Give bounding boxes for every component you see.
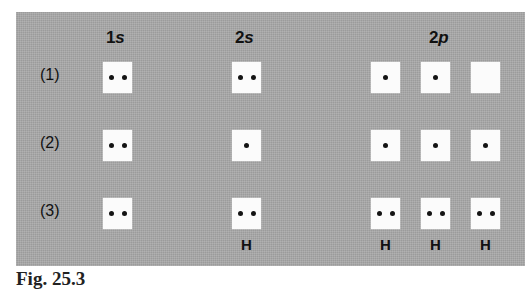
electron-dot-group	[103, 130, 132, 161]
electron-dot	[238, 75, 243, 80]
electron-dot	[383, 143, 388, 148]
electron-dot-group	[471, 198, 500, 229]
electron-dot	[433, 143, 438, 148]
electron-dot	[109, 211, 114, 216]
electron-dot-group	[471, 130, 500, 161]
electron-dot	[433, 75, 438, 80]
electron-dot	[483, 143, 488, 148]
electron-dot	[122, 143, 127, 148]
electron-dot	[238, 211, 243, 216]
electron-dot	[244, 143, 249, 148]
orbital-box-2p-row2-4	[421, 130, 450, 161]
hybrid-label-2p-row3-4: H	[421, 236, 450, 253]
electron-dot-group	[421, 198, 450, 229]
electron-dot-group	[103, 198, 132, 229]
orbital-box-2s-row3-2	[232, 198, 261, 229]
electron-dot-group	[371, 130, 400, 161]
column-header-2p: 2p	[429, 28, 448, 48]
electron-dot	[383, 75, 388, 80]
electron-dot-group	[371, 62, 400, 93]
electron-dot-group	[232, 198, 261, 229]
electron-dot	[477, 211, 482, 216]
column-header-1s: 1s	[106, 28, 125, 48]
electron-dot	[122, 75, 127, 80]
electron-dot	[390, 211, 395, 216]
orbital-box-2p-row3-5	[471, 198, 500, 229]
electron-dot	[490, 211, 495, 216]
orbital-box-2p-row2-5	[471, 130, 500, 161]
hybrid-label-2p-row3-5: H	[471, 236, 500, 253]
column-header-2p-subshell: p	[438, 28, 448, 47]
electron-dot-group	[471, 62, 500, 93]
orbital-box-1s-row2-1	[103, 130, 132, 161]
electron-dot-group	[232, 130, 261, 161]
electron-dot-group	[371, 198, 400, 229]
row-label-1: (1)	[40, 66, 60, 84]
electron-dot	[122, 211, 127, 216]
orbital-box-1s-row3-1	[103, 198, 132, 229]
electron-dot	[251, 211, 256, 216]
row-label-3: (3)	[40, 202, 60, 220]
column-header-1s-shell: 1	[106, 28, 115, 47]
electron-dot-group	[421, 62, 450, 93]
column-header-2s-shell: 2	[235, 28, 244, 47]
column-header-1s-subshell: s	[115, 28, 124, 47]
orbital-box-2p-row2-3	[371, 130, 400, 161]
orbital-box-2s-row2-2	[232, 130, 261, 161]
orbital-box-2p-row3-3	[371, 198, 400, 229]
electron-dot-group	[232, 62, 261, 93]
orbital-box-2p-row1-4	[421, 62, 450, 93]
electron-dot	[440, 211, 445, 216]
electron-dot	[377, 211, 382, 216]
hybrid-label-2s-row3-2: H	[232, 236, 261, 253]
orbital-box-2p-row1-3	[371, 62, 400, 93]
orbital-box-1s-row1-1	[103, 62, 132, 93]
electron-dot	[251, 75, 256, 80]
column-header-2s: 2s	[235, 28, 254, 48]
figure-caption: Fig. 25.3	[16, 268, 85, 290]
orbital-box-2p-row1-5	[471, 62, 500, 93]
orbital-box-2s-row1-2	[232, 62, 261, 93]
column-header-2s-subshell: s	[244, 28, 253, 47]
electron-dot-group	[421, 130, 450, 161]
column-header-2p-shell: 2	[429, 28, 438, 47]
hybrid-label-2p-row3-3: H	[371, 236, 400, 253]
electron-dot-group	[103, 62, 132, 93]
electron-dot	[427, 211, 432, 216]
electron-dot	[109, 75, 114, 80]
orbital-box-2p-row3-4	[421, 198, 450, 229]
row-label-2: (2)	[40, 134, 60, 152]
electron-dot	[109, 143, 114, 148]
